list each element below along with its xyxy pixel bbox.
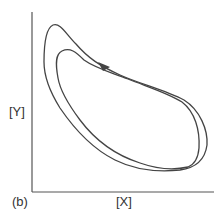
inner-loop	[56, 50, 199, 169]
y-axis-label: [Y]	[9, 104, 25, 119]
phase-plot	[0, 0, 224, 218]
panel-label: (b)	[12, 194, 28, 209]
x-axis-label: [X]	[116, 194, 132, 209]
outer-loop	[44, 25, 207, 171]
